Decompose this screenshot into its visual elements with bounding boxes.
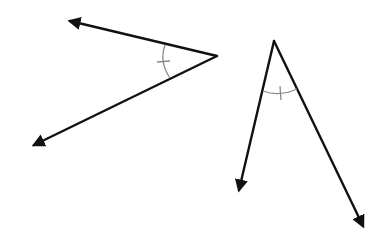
angle-left-tick-mark	[157, 61, 170, 62]
angle-left-ray-lower	[34, 56, 217, 145]
angle-right	[239, 41, 363, 226]
angle-right-ray-left	[239, 41, 274, 190]
angle-right-ray-right	[274, 41, 363, 226]
angle-left	[34, 21, 217, 145]
angle-right-tick-mark	[280, 86, 281, 100]
congruent-angles-diagram	[0, 0, 385, 247]
angle-left-ray-upper	[70, 21, 217, 56]
